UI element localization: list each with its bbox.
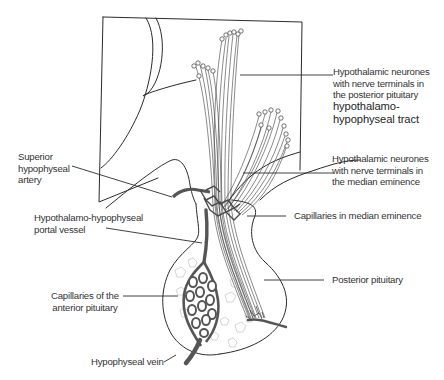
label-portal-vessel-line2: portal vessel bbox=[34, 224, 143, 236]
label-capillaries-anterior-line1: Capillaries of the bbox=[51, 290, 119, 302]
label-capillaries-median: Capillaries in median eminence bbox=[294, 210, 421, 222]
label-tract-line2: hypophyseal tract bbox=[333, 113, 419, 126]
label-median-neurones: Hypothalamic neurones with nerve termina… bbox=[332, 153, 429, 188]
label-median-neurones-line1: Hypothalamic neurones bbox=[332, 153, 429, 165]
hypophyseal-vein bbox=[186, 340, 200, 363]
label-posterior-pituitary: Posterior pituitary bbox=[332, 274, 403, 286]
label-posterior-neurones-line1: Hypothalamic neurones bbox=[333, 66, 430, 78]
label-superior-artery-line3: artery bbox=[18, 174, 70, 186]
label-tract-line1: hypothalamo- bbox=[333, 100, 419, 113]
label-superior-artery-line2: hypophyseal bbox=[18, 163, 70, 175]
label-posterior-neurones: Hypothalamic neurones with nerve termina… bbox=[333, 66, 430, 101]
label-vein: Hypophyseal vein bbox=[91, 356, 164, 368]
label-capillaries-anterior-line2: anterior pituitary bbox=[51, 302, 119, 314]
anterior-capillary-network bbox=[184, 262, 219, 346]
stalk-right bbox=[220, 200, 287, 354]
third-ventricle bbox=[101, 18, 153, 168]
leader-vein bbox=[164, 355, 176, 362]
label-capillaries-anterior: Capillaries of the anterior pituitary bbox=[51, 290, 119, 313]
label-median-neurones-line3: the median eminence bbox=[332, 176, 429, 188]
label-portal-vessel-line1: Hypothalamo-hypophyseal bbox=[34, 212, 143, 224]
label-posterior-neurones-line2: with nerve terminals in bbox=[333, 78, 430, 90]
infundibulum-curve-1 bbox=[228, 152, 300, 202]
label-superior-artery-line1: Superior bbox=[18, 151, 70, 163]
label-portal-vessel: Hypothalamo-hypophyseal portal vessel bbox=[34, 212, 143, 235]
posterior-neurone-cell-bodies bbox=[192, 29, 243, 78]
optic-chiasm bbox=[106, 160, 196, 208]
label-median-neurones-line2: with nerve terminals in bbox=[332, 165, 429, 177]
label-superior-artery: Superior hypophyseal artery bbox=[18, 151, 70, 186]
pituitary-diagram bbox=[0, 0, 444, 380]
portal-vessel bbox=[204, 210, 207, 262]
label-tract: hypothalamo- hypophyseal tract bbox=[333, 100, 419, 126]
